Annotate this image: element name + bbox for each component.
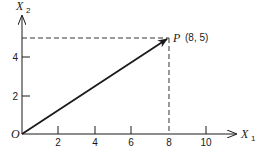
x-tick-label: 8 <box>166 137 172 148</box>
x-axis-label: X <box>240 127 249 141</box>
point-label: P <box>172 31 181 45</box>
x-tick-label: 2 <box>55 137 61 148</box>
y-ticks <box>22 57 30 96</box>
x-tick-label: 10 <box>200 137 212 148</box>
x-ticks <box>58 126 206 134</box>
x-axis-subscript: 1 <box>251 134 256 143</box>
y-axis-label: X <box>15 0 24 13</box>
vector-diagram: 2 4 6 8 10 2 4 O P (8, 5) X 1 X 2 <box>0 0 263 153</box>
x-tick-label: 4 <box>92 137 98 148</box>
x-tick-label: 6 <box>128 137 134 148</box>
y-tick-label: 4 <box>12 52 18 63</box>
vector-op <box>22 39 167 134</box>
point-coords: (8, 5) <box>185 32 208 43</box>
origin-label: O <box>11 127 20 141</box>
y-axis-subscript: 2 <box>26 6 31 15</box>
y-tick-label: 2 <box>12 91 18 102</box>
